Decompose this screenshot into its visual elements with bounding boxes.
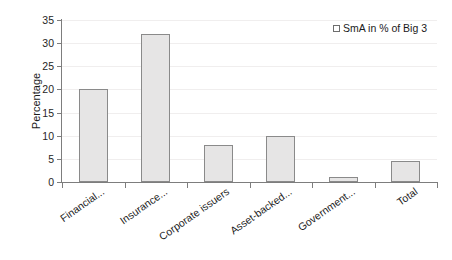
y-tick-label: 15	[26, 107, 54, 118]
x-tick-mark	[125, 183, 126, 188]
x-tick-label: Asset-backed...	[228, 185, 294, 236]
x-tick-mark	[437, 183, 438, 188]
y-tick-label: 10	[26, 130, 54, 141]
bars	[62, 20, 437, 182]
y-tick-label: 35	[26, 15, 54, 26]
y-tick-label: 30	[26, 38, 54, 49]
x-tick-mark	[312, 183, 313, 188]
legend-label: SmA in % of Big 3	[343, 22, 427, 34]
y-axis-title: Percentage	[30, 41, 42, 161]
y-tick-label: 5	[26, 154, 54, 165]
bar	[266, 136, 295, 182]
x-tick-mark	[62, 183, 63, 188]
legend: SmA in % of Big 3	[333, 22, 427, 34]
bar	[204, 145, 233, 182]
bar-chart: Percentage 05101520253035 Financial...In…	[0, 0, 452, 260]
y-tick-label: 25	[26, 61, 54, 72]
x-tick-label: Total	[394, 185, 419, 208]
bar	[329, 177, 358, 182]
x-tick-mark	[250, 183, 251, 188]
y-tick-label: 20	[26, 84, 54, 95]
x-tick-label: Government...	[295, 185, 356, 233]
bar	[141, 34, 170, 182]
x-tick-label: Financial...	[58, 185, 106, 224]
x-tick-mark	[187, 183, 188, 188]
bar	[79, 89, 108, 182]
bar	[391, 161, 420, 182]
legend-swatch-icon	[333, 25, 340, 32]
x-tick-mark	[375, 183, 376, 188]
y-tick-label: 0	[26, 177, 54, 188]
x-tick-label: Insurance...	[117, 185, 169, 226]
